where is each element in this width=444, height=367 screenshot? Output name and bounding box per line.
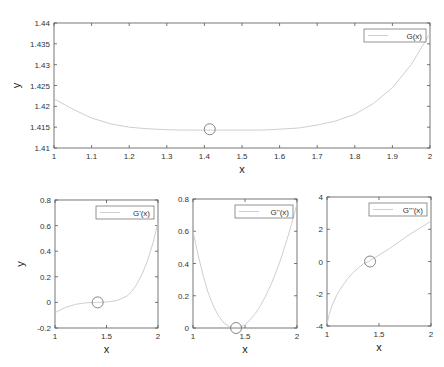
y-tick-label: 1.415 bbox=[30, 123, 51, 132]
y-tick-label: 1.42 bbox=[34, 102, 50, 111]
x-tick-label: 1.5 bbox=[239, 332, 251, 341]
x-axis-label: x bbox=[242, 343, 248, 355]
x-tick-label: 2 bbox=[429, 330, 434, 339]
x-tick-label: 1.1 bbox=[86, 152, 98, 161]
y-tick-label: 1.435 bbox=[30, 40, 51, 49]
x-tick-label: 1 bbox=[191, 332, 196, 341]
series-line-1 bbox=[54, 33, 430, 130]
y-tick-label: 0.2 bbox=[40, 273, 52, 282]
figure: 11.11.21.31.41.51.61.71.81.921.411.4151.… bbox=[0, 0, 444, 367]
y-tick-label: 0.6 bbox=[178, 227, 190, 236]
y-tick-label: 1.425 bbox=[30, 82, 51, 91]
y-tick-label: -4 bbox=[316, 322, 324, 331]
legend-label: G(x) bbox=[406, 32, 422, 41]
y-axis-label: y bbox=[14, 261, 26, 267]
x-tick-label: 1.5 bbox=[373, 330, 385, 339]
x-tick-label: 1.6 bbox=[274, 152, 286, 161]
x-axis-label: x bbox=[239, 163, 245, 175]
x-tick-label: 1.9 bbox=[387, 152, 399, 161]
x-tick-label: 1.2 bbox=[124, 152, 136, 161]
y-tick-label: 0.2 bbox=[178, 292, 190, 301]
x-tick-label: 1.5 bbox=[236, 152, 248, 161]
x-axis-label: x bbox=[104, 343, 110, 355]
y-tick-label: 1.44 bbox=[34, 19, 50, 28]
x-tick-label: 1 bbox=[52, 152, 57, 161]
x-tick-label: 2 bbox=[428, 152, 433, 161]
x-tick-label: 1.5 bbox=[101, 332, 113, 341]
marker-circle bbox=[365, 256, 376, 267]
y-tick-label: 1.43 bbox=[34, 61, 50, 70]
x-tick-label: 1.4 bbox=[199, 152, 211, 161]
y-tick-label: -2 bbox=[316, 290, 324, 299]
y-tick-label: 2 bbox=[319, 225, 324, 234]
axes-box-4 bbox=[327, 197, 431, 326]
axes-box-3 bbox=[193, 199, 297, 328]
legend-label: G'''(x) bbox=[403, 206, 423, 215]
y-tick-label: 4 bbox=[319, 193, 324, 202]
y-tick-label: 0 bbox=[319, 258, 324, 267]
x-tick-label: 1.3 bbox=[161, 152, 173, 161]
y-tick-label: 0 bbox=[47, 298, 52, 307]
x-tick-label: 1 bbox=[53, 332, 58, 341]
x-tick-label: 1.7 bbox=[312, 152, 324, 161]
y-tick-label: 0.8 bbox=[40, 196, 52, 205]
x-axis-label: x bbox=[376, 341, 382, 353]
legend-label: G'(x) bbox=[133, 209, 150, 218]
x-tick-label: 1.8 bbox=[349, 152, 361, 161]
x-tick-label: 1 bbox=[325, 330, 330, 339]
y-axis-label: y bbox=[10, 82, 22, 88]
y-tick-label: 0.6 bbox=[40, 222, 52, 231]
y-tick-label: -0.2 bbox=[37, 324, 51, 333]
y-tick-label: 1.41 bbox=[34, 144, 50, 153]
y-tick-label: 0.8 bbox=[178, 195, 190, 204]
x-tick-label: 2 bbox=[156, 332, 161, 341]
series-line-3 bbox=[193, 204, 297, 328]
legend-label: G''(x) bbox=[270, 208, 289, 217]
y-tick-label: 0 bbox=[185, 324, 190, 333]
x-tick-label: 2 bbox=[295, 332, 300, 341]
marker-circle bbox=[204, 124, 215, 135]
y-tick-label: 0.4 bbox=[178, 260, 190, 269]
y-tick-label: 0.4 bbox=[40, 247, 52, 256]
series-line-2 bbox=[55, 223, 158, 313]
series-line-4 bbox=[327, 221, 431, 324]
